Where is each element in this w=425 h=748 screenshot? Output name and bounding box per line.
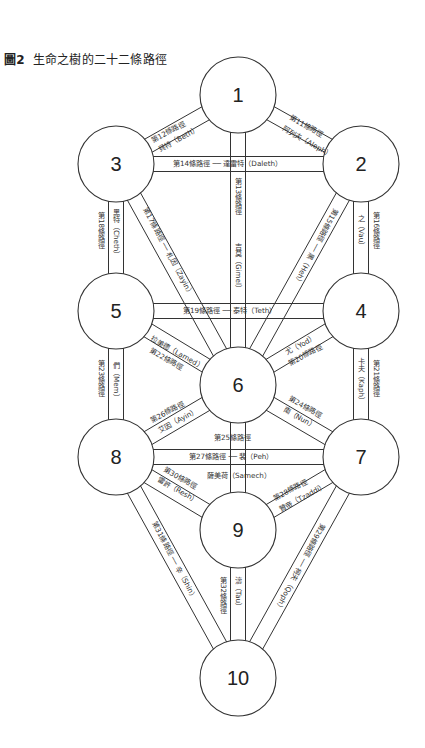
path-18-number-label: 第18條路徑	[97, 211, 106, 249]
path-16-number-label: 第16條路徑	[372, 211, 381, 249]
sephirah-number: 2	[355, 153, 366, 175]
path-23-number-label: 第23條路徑	[97, 359, 106, 397]
path-21-letter-label: 卡夫（Kaph）	[357, 357, 366, 404]
sephirah-number: 6	[232, 374, 243, 396]
path-25-letter-label: 薩美荷（Samech）	[207, 471, 271, 480]
path-27-label: 第27條路徑 ── 裴（Peh）	[189, 452, 273, 461]
path-18-letter-label: 黑特（Cheth）	[112, 209, 121, 258]
sephirah-5: 5	[78, 273, 154, 349]
sephirah-7: 7	[323, 419, 399, 495]
path-16-letter-label: 之（Vau）	[357, 214, 366, 249]
path-31-edge	[109, 461, 231, 682]
sephirah-4: 4	[323, 273, 399, 349]
sephirah-3: 3	[78, 126, 154, 202]
sephirah-number: 5	[110, 300, 121, 322]
tree-of-life-diagram: 12345678910 第11條路徑 阿列夫（Aleph） 第12條路徑 貝特（…	[0, 0, 425, 748]
sephirah-1: 1	[200, 57, 276, 133]
sephirah-number: 4	[355, 300, 366, 322]
sephirah-9: 9	[200, 492, 276, 568]
path-19-label: 第19條路徑 ── 泰特（Teth）	[183, 306, 276, 315]
sephirah-number: 1	[232, 84, 243, 106]
sephirah-8: 8	[78, 419, 154, 495]
path-32-letter-label: 濤（Tau）	[234, 576, 243, 610]
path-13-number-label: 第13條路徑	[234, 177, 243, 215]
path-23-letter-label: 們（Mem）	[112, 362, 121, 401]
sephirah-number: 3	[110, 153, 121, 175]
path-13-channel	[231, 95, 246, 385]
sephirah-10: 10	[200, 640, 276, 716]
sephirah-number: 8	[110, 446, 121, 468]
path-17-label: 第17條路徑 ── 札因（Zayin）	[141, 206, 195, 297]
sephirah-number: 10	[227, 667, 249, 689]
path-15-label: 第15條路徑 ── 黑（Heh）	[292, 207, 340, 287]
sephiroth: 12345678910	[78, 57, 399, 716]
path-29-label: 第29條路徑 ── 柯夫（Qoph）	[273, 522, 327, 612]
path-14-label: 第14條路徑 ── 達雷特（Daleth）	[173, 159, 282, 168]
sephirah-2: 2	[323, 126, 399, 202]
path-21-number-label: 第21條路徑	[372, 359, 381, 397]
path-32-number-label: 第32條路徑	[219, 576, 228, 614]
sephirah-number: 7	[355, 446, 366, 468]
path-13-letter-label: 吉莫（Gimel）	[234, 243, 243, 292]
path-31-label: 第31條路徑 ── 辛（Shin）	[150, 520, 199, 601]
sephirah-6: 6	[200, 347, 276, 423]
path-25-number-label: 第25條路徑	[214, 433, 251, 442]
sephirah-number: 9	[232, 519, 243, 541]
